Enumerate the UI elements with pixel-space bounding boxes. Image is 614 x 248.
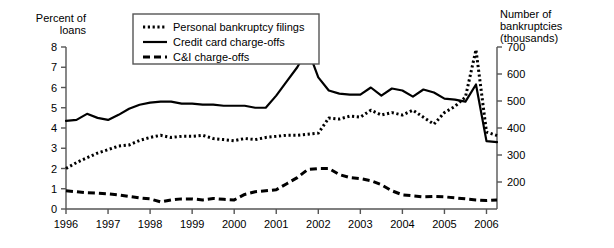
y-axis-tick-label: 5 <box>51 102 57 114</box>
x-axis-tick-label: 2001 <box>264 218 288 230</box>
y-axis-tick-label: 7 <box>51 61 57 73</box>
right-axis-title: Number of bankruptcies (thousands) <box>500 8 612 44</box>
x-axis-tick-label: 1999 <box>180 218 204 230</box>
series-line-2 <box>66 169 497 202</box>
x-axis-tick-label: 1997 <box>96 218 120 230</box>
left-axis-title: Percent of loans <box>8 12 86 36</box>
x-axis-tick-label: 2003 <box>348 218 372 230</box>
chart-figure: Percent of loans Number of bankruptcies … <box>0 0 614 248</box>
chart-axes: 0123456782003004005006007001996199719981… <box>51 41 525 230</box>
y-axis-tick-label: 1 <box>51 183 57 195</box>
y2-axis-tick-label: 300 <box>507 149 525 161</box>
y2-axis-tick-label: 200 <box>507 176 525 188</box>
x-axis-tick-label: 2005 <box>432 218 456 230</box>
chart-legend: Personal bankruptcy filingsCredit card c… <box>133 14 319 64</box>
y2-axis-tick-label: 500 <box>507 95 525 107</box>
x-axis-tick-label: 1996 <box>54 218 78 230</box>
y-axis-tick-label: 2 <box>51 163 57 175</box>
y2-axis-tick-label: 400 <box>507 122 525 134</box>
x-axis-tick-label: 2000 <box>222 218 246 230</box>
y2-axis-tick-label: 600 <box>507 68 525 80</box>
legend-label-2: C&I charge-offs <box>173 51 250 63</box>
chart-series-group <box>66 49 497 202</box>
x-axis-tick-label: 2002 <box>306 218 330 230</box>
y-axis-tick-label: 6 <box>51 82 57 94</box>
x-axis-tick-label: 1998 <box>138 218 162 230</box>
x-axis-tick-label: 2006 <box>474 218 498 230</box>
y-axis-tick-label: 3 <box>51 142 57 154</box>
x-axis-tick-label: 2004 <box>390 218 414 230</box>
legend-label-1: Credit card charge-offs <box>173 36 285 48</box>
legend-label-0: Personal bankruptcy filings <box>173 21 305 33</box>
y-axis-tick-label: 4 <box>51 122 57 134</box>
y-axis-tick-label: 0 <box>51 203 57 215</box>
y-axis-tick-label: 8 <box>51 41 57 53</box>
